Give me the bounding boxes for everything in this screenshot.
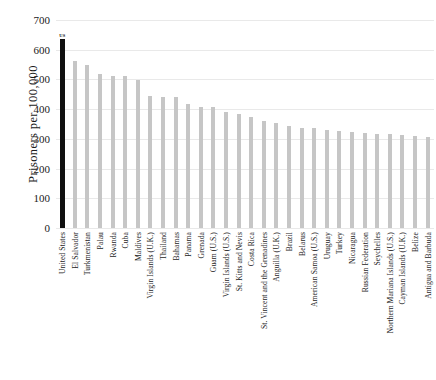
bar xyxy=(73,61,77,228)
x-axis-tick-label: United States xyxy=(58,232,67,274)
x-axis-tick-label: Turkey xyxy=(335,232,344,254)
bar-slot xyxy=(94,20,107,228)
bar-series: US xyxy=(56,20,434,228)
x-axis-label-slot: Antigua and Barbuda xyxy=(421,232,434,378)
x-axis-tick-label: Palau xyxy=(96,232,105,249)
x-axis-label-slot: El Salvador xyxy=(69,232,82,378)
x-axis-label-slot: United States xyxy=(56,232,69,378)
x-axis-label-slot: St. Kitts and Nevis xyxy=(232,232,245,378)
bar-slot xyxy=(144,20,157,228)
x-axis-label-slot: Anguilla (U.K.) xyxy=(270,232,283,378)
x-axis-label-slot: Bahamas xyxy=(169,232,182,378)
bar-slot xyxy=(245,20,258,228)
bar-slot xyxy=(320,20,333,228)
x-axis-label-slot: Nicaragua xyxy=(346,232,359,378)
bar-slot xyxy=(182,20,195,228)
x-axis-tick-label: Bahamas xyxy=(171,232,180,261)
bar-slot xyxy=(333,20,346,228)
x-axis-tick-label: Northern Mariana Islands (U.S.) xyxy=(385,232,394,334)
bar xyxy=(148,96,152,228)
x-axis-label-slot: Virgin Islands (U.K.) xyxy=(144,232,157,378)
prisoners-per-100000-bar-chart: Prisoners per 100,000 010020030040050060… xyxy=(0,0,436,380)
x-axis-label-slot: Turkey xyxy=(333,232,346,378)
bar-slot xyxy=(409,20,422,228)
x-axis-label-slot: Thailand xyxy=(157,232,170,378)
x-axis-label-slot: Panama xyxy=(182,232,195,378)
bar-slot xyxy=(207,20,220,228)
bar-slot xyxy=(119,20,132,228)
bar-slot xyxy=(283,20,296,228)
x-axis-tick-labels: United StatesEl SalvadorTurkmenistanPala… xyxy=(56,232,434,378)
x-axis-label-slot: Belarus xyxy=(295,232,308,378)
x-axis-label-slot: St. Vincent and the Grenadines xyxy=(258,232,271,378)
gridline xyxy=(56,228,434,229)
bar xyxy=(388,134,392,228)
x-axis-tick-label: Guam (U.S.) xyxy=(209,232,218,272)
y-axis-tick-label: 100 xyxy=(0,192,50,204)
bar xyxy=(249,117,253,228)
bar xyxy=(199,107,203,228)
bar xyxy=(136,80,140,228)
bar xyxy=(350,132,354,228)
x-axis-label-slot: Grenada xyxy=(195,232,208,378)
bar xyxy=(274,123,278,228)
x-axis-tick-label: Rwanda xyxy=(108,232,117,257)
bar xyxy=(363,133,367,228)
bar-slot xyxy=(220,20,233,228)
x-axis-tick-label: Brazil xyxy=(285,232,294,251)
y-axis-tick-label: 500 xyxy=(0,73,50,85)
x-axis-tick-label: Belize xyxy=(411,232,420,252)
bar xyxy=(224,112,228,228)
x-axis-tick-label: Cayman Islands (U.K.) xyxy=(398,232,407,305)
x-axis-label-slot: Virgin Islands (U.S.) xyxy=(220,232,233,378)
x-axis-tick-label: American Samoa (U.S.) xyxy=(310,232,319,307)
x-axis-label-slot: American Samoa (U.S.) xyxy=(308,232,321,378)
y-axis-tick-label: 300 xyxy=(0,133,50,145)
bar xyxy=(161,97,165,228)
bar xyxy=(237,114,241,228)
x-axis-tick-label: Belarus xyxy=(297,232,306,256)
x-axis-label-slot: Northern Mariana Islands (U.S.) xyxy=(384,232,397,378)
x-axis-tick-label: Maldives xyxy=(133,232,142,261)
x-axis-tick-label: Panama xyxy=(184,232,193,257)
bar-slot xyxy=(195,20,208,228)
bar xyxy=(337,131,341,228)
bar xyxy=(325,130,329,228)
bar xyxy=(287,126,291,228)
x-axis-tick-label: Antigua and Barbuda xyxy=(423,232,432,299)
x-axis-tick-label: Virgin Islands (U.S.) xyxy=(222,232,231,297)
x-axis-label-slot: Seychelles xyxy=(371,232,384,378)
bar-slot xyxy=(69,20,82,228)
x-axis-label-slot: Maldives xyxy=(132,232,145,378)
y-axis-tick-label: 0 xyxy=(0,222,50,234)
bar-slot xyxy=(295,20,308,228)
bar-slot xyxy=(169,20,182,228)
bar-slot xyxy=(132,20,145,228)
x-axis-tick-label: Seychelles xyxy=(373,232,382,265)
bar-slot xyxy=(396,20,409,228)
bar xyxy=(300,128,304,228)
bar xyxy=(375,134,379,228)
x-axis-label-slot: Cuba xyxy=(119,232,132,378)
bar xyxy=(413,136,417,228)
x-axis-label-slot: Turkmenistan xyxy=(81,232,94,378)
x-axis-tick-label: St. Kitts and Nevis xyxy=(234,232,243,291)
bar-slot xyxy=(81,20,94,228)
bar xyxy=(174,97,178,228)
bar xyxy=(262,121,266,228)
bar xyxy=(186,104,190,229)
x-axis-label-slot: Belize xyxy=(409,232,422,378)
bar-slot xyxy=(358,20,371,228)
x-axis-tick-label: Turkmenistan xyxy=(83,232,92,275)
bar xyxy=(123,76,127,228)
bar xyxy=(312,128,316,228)
plot-area: 0100200300400500600700 US xyxy=(56,20,434,228)
bar-slot xyxy=(383,20,396,228)
y-axis-tick-label: 200 xyxy=(0,163,50,175)
x-axis-tick-label: Virgin Islands (U.K.) xyxy=(146,232,155,298)
bar xyxy=(98,74,102,228)
bar xyxy=(111,76,115,228)
bar-slot xyxy=(346,20,359,228)
x-axis-label-slot: Palau xyxy=(94,232,107,378)
x-axis-tick-label: El Salvador xyxy=(70,232,79,269)
